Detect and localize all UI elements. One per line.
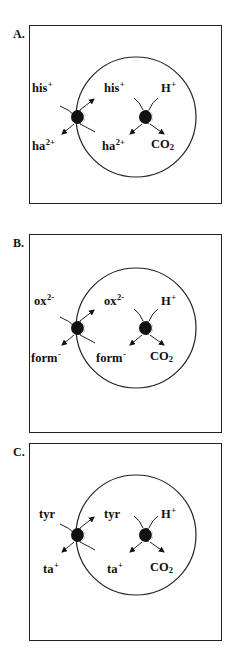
decarboxylase-bottom-label: CO2 xyxy=(150,350,173,364)
decarboxylase-top-label: H+ xyxy=(161,293,176,308)
outer-top-label: tyr xyxy=(39,506,55,521)
panel-frame xyxy=(29,25,222,204)
inner-bottom-label: ha2+ xyxy=(102,138,125,153)
outer-top-label: his+ xyxy=(32,80,53,95)
inner-bottom-label: form- xyxy=(96,350,126,365)
inner-top-label: his+ xyxy=(104,80,125,95)
inner-top-label: tyr xyxy=(104,506,120,521)
inner-top-label: ox2- xyxy=(104,293,124,308)
panel-letter: A. xyxy=(13,27,25,42)
decarboxylase-top-label: H+ xyxy=(161,506,176,521)
decarboxylase-bottom-label: CO2 xyxy=(150,561,173,575)
panel-letter: B. xyxy=(13,236,24,251)
outer-bottom-label: ha2+ xyxy=(32,138,55,153)
inner-bottom-label: ta+ xyxy=(107,561,123,576)
panel-letter: C. xyxy=(13,445,25,460)
outer-bottom-label: form- xyxy=(31,350,61,365)
panel-frame xyxy=(29,443,222,641)
outer-top-label: ox2- xyxy=(34,293,54,308)
decarboxylase-top-label: H+ xyxy=(161,80,176,95)
outer-bottom-label: ta+ xyxy=(43,561,59,576)
decarboxylase-bottom-label: CO2 xyxy=(151,138,174,152)
panel-frame xyxy=(29,234,222,433)
